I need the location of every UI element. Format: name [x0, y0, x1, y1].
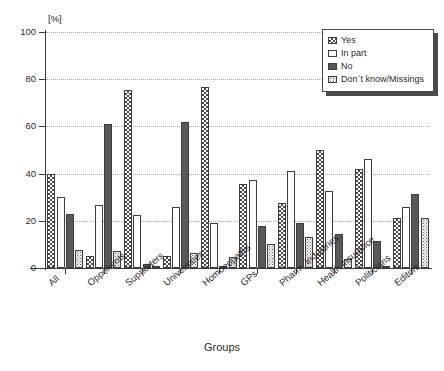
- y-tick-mark: [39, 79, 46, 80]
- legend-item-yes: Yes: [328, 34, 428, 46]
- bar: [66, 214, 74, 268]
- bar: [393, 218, 401, 268]
- bar: [421, 218, 429, 268]
- legend-item-dont-know: Don´t know/Missings: [328, 73, 428, 85]
- legend-swatch-in-part-icon: [328, 50, 337, 57]
- bar: [57, 197, 65, 268]
- y-tick-mark: [39, 221, 46, 222]
- bar-group: [47, 32, 83, 268]
- bar: [172, 207, 180, 268]
- bar-group: [124, 32, 160, 268]
- bar: [287, 171, 295, 268]
- y-tick-label: 80: [8, 74, 36, 84]
- bar: [95, 205, 103, 268]
- bar: [124, 90, 132, 268]
- x-axis-title: Groups: [0, 341, 444, 353]
- legend-label-dont-know: Don´t know/Missings: [341, 75, 424, 84]
- bar: [201, 87, 209, 268]
- bar-group: [201, 32, 237, 268]
- y-tick-label: 40: [8, 169, 36, 179]
- y-tick-label: 0: [8, 263, 36, 273]
- legend-item-no: No: [328, 60, 428, 72]
- legend-swatch-yes-icon: [328, 37, 337, 44]
- x-tick-mark: [65, 268, 66, 274]
- x-category-label: All: [47, 274, 62, 288]
- legend-label-yes: Yes: [341, 36, 356, 45]
- bar: [267, 244, 275, 268]
- bar: [402, 207, 410, 268]
- bar: [411, 194, 419, 268]
- bar: [249, 180, 257, 269]
- bar-group: [163, 32, 199, 268]
- bar: [278, 203, 286, 268]
- bar-chart-figure: [%] 020406080100 AllOpponentsSupportersU…: [0, 0, 444, 371]
- bar: [86, 256, 94, 268]
- bar-group: [239, 32, 275, 268]
- bar: [75, 250, 83, 268]
- bar-group: [86, 32, 122, 268]
- y-tick-mark: [39, 268, 46, 269]
- legend-item-in-part: In part: [328, 47, 428, 59]
- y-axis-unit-label: [%]: [48, 14, 62, 24]
- y-tick-mark: [39, 174, 46, 175]
- bar: [210, 223, 218, 268]
- y-tick-label: 60: [8, 121, 36, 131]
- bar: [104, 124, 112, 268]
- bar: [133, 215, 141, 268]
- bar: [47, 174, 55, 268]
- y-tick-label: 100: [8, 27, 36, 37]
- legend-label-no: No: [341, 62, 353, 71]
- y-tick-mark: [39, 126, 46, 127]
- bar: [325, 191, 333, 268]
- bar: [181, 122, 189, 268]
- bar-group: [278, 32, 314, 268]
- legend-label-in-part: In part: [341, 49, 367, 58]
- y-tick-label: 20: [8, 216, 36, 226]
- legend-swatch-dont-know-icon: [328, 76, 337, 83]
- bar: [258, 226, 266, 268]
- chart-legend: Yes In part No Don´t know/Missings: [322, 29, 434, 92]
- legend-swatch-no-icon: [328, 63, 337, 70]
- y-tick-mark: [39, 32, 46, 33]
